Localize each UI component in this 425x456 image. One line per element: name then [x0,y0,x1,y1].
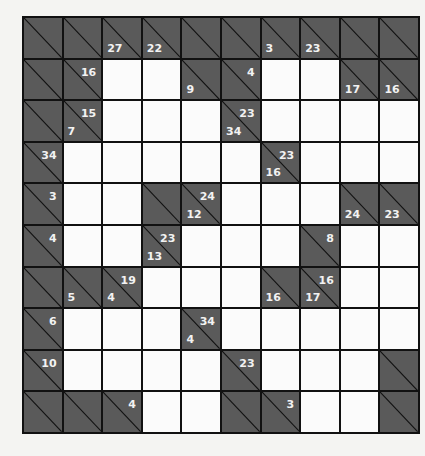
down-clue: 23 [305,43,320,54]
down-clue: 16 [266,167,281,178]
entry-cell[interactable] [262,101,300,141]
entry-cell[interactable] [222,309,260,349]
entry-cell[interactable] [64,351,102,391]
down-clue: 27 [107,43,122,54]
entry-cell[interactable] [341,392,379,432]
entry-cell[interactable] [301,309,339,349]
entry-cell[interactable] [103,143,141,183]
entry-cell[interactable] [341,143,379,183]
across-clue: 23 [160,233,175,244]
blocked-cell [24,18,62,58]
entry-cell[interactable] [380,268,418,308]
entry-cell[interactable] [143,143,181,183]
across-clue: 4 [49,233,57,244]
entry-cell[interactable] [222,143,260,183]
clue-cell: 16 [262,268,300,308]
diagonal-divider-icon [64,392,102,432]
entry-cell[interactable] [103,226,141,266]
entry-cell[interactable] [262,351,300,391]
entry-cell[interactable] [301,351,339,391]
diagonal-divider-icon [24,268,62,308]
entry-cell[interactable] [143,392,181,432]
entry-cell[interactable] [301,143,339,183]
entry-cell[interactable] [182,101,220,141]
entry-cell[interactable] [262,60,300,100]
entry-cell[interactable] [64,143,102,183]
down-clue: 16 [384,84,399,95]
blocked-cell [64,392,102,432]
clue-cell: 17 [341,60,379,100]
diagonal-divider-icon [222,18,260,58]
down-clue: 3 [266,43,274,54]
entry-cell[interactable] [143,60,181,100]
clue-cell: 3 [24,184,62,224]
diagonal-divider-icon [341,18,379,58]
down-clue: 17 [345,84,360,95]
entry-cell[interactable] [301,392,339,432]
entry-cell[interactable] [380,309,418,349]
blocked-cell [380,351,418,391]
entry-cell[interactable] [341,226,379,266]
clue-cell: 2313 [143,226,181,266]
across-clue: 16 [318,275,333,286]
across-clue: 4 [128,399,136,410]
across-clue: 4 [247,67,255,78]
entry-cell[interactable] [222,268,260,308]
entry-cell[interactable] [103,101,141,141]
entry-cell[interactable] [143,309,181,349]
entry-cell[interactable] [143,351,181,391]
clue-cell: 4 [24,226,62,266]
clue-cell: 1617 [301,268,339,308]
entry-cell[interactable] [182,143,220,183]
entry-cell[interactable] [341,351,379,391]
blocked-cell [222,392,260,432]
entry-cell[interactable] [143,268,181,308]
diagonal-divider-icon [222,392,260,432]
entry-cell[interactable] [341,101,379,141]
entry-cell[interactable] [64,184,102,224]
down-clue: 9 [186,84,194,95]
down-clue: 13 [147,251,162,262]
entry-cell[interactable] [103,351,141,391]
entry-cell[interactable] [103,184,141,224]
across-clue: 3 [49,191,57,202]
entry-cell[interactable] [222,226,260,266]
entry-cell[interactable] [64,226,102,266]
entry-cell[interactable] [262,184,300,224]
entry-cell[interactable] [301,60,339,100]
entry-cell[interactable] [380,101,418,141]
entry-cell[interactable] [341,268,379,308]
entry-cell[interactable] [143,101,181,141]
clue-cell: 16 [64,60,102,100]
entry-cell[interactable] [222,184,260,224]
entry-cell[interactable] [182,268,220,308]
diagonal-divider-icon [380,351,418,391]
blocked-cell [24,392,62,432]
clue-cell: 8 [301,226,339,266]
entry-cell[interactable] [341,309,379,349]
clue-cell: 5 [64,268,102,308]
entry-cell[interactable] [262,309,300,349]
across-clue: 34 [41,150,56,161]
diagonal-divider-icon [64,18,102,58]
clue-cell: 27 [103,18,141,58]
entry-cell[interactable] [380,226,418,266]
diagonal-divider-icon [380,392,418,432]
entry-cell[interactable] [182,351,220,391]
entry-cell[interactable] [182,226,220,266]
entry-cell[interactable] [262,226,300,266]
entry-cell[interactable] [103,309,141,349]
entry-cell[interactable] [64,309,102,349]
blocked-cell [64,18,102,58]
down-clue: 5 [68,292,76,303]
entry-cell[interactable] [301,101,339,141]
clue-cell: 4 [222,60,260,100]
entry-cell[interactable] [103,60,141,100]
clue-cell: 2334 [222,101,260,141]
entry-cell[interactable] [380,143,418,183]
across-clue: 24 [200,191,215,202]
clue-cell: 24 [341,184,379,224]
across-clue: 6 [49,316,57,327]
entry-cell[interactable] [301,184,339,224]
entry-cell[interactable] [182,392,220,432]
